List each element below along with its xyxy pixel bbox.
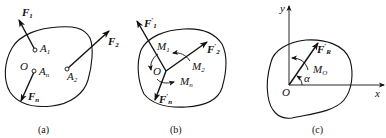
label-alpha: α: [304, 72, 310, 84]
caption-b: (b): [170, 124, 182, 136]
label-m2: M2: [191, 60, 205, 74]
angle-arc-alpha: [297, 76, 302, 85]
rigid-body-outline: [138, 29, 226, 107]
point-a1: [33, 48, 37, 52]
label-o: O: [282, 86, 290, 98]
label-y: y: [279, 2, 285, 14]
panel-b: F′1 F′2 F′n O M1 M2 Mn (b): [137, 16, 226, 136]
label-f1-prime: F′1: [143, 16, 157, 30]
point-an: [32, 69, 36, 73]
label-a1: A1: [39, 42, 50, 56]
label-o: O: [153, 65, 161, 77]
label-fn-prime: F′n: [158, 92, 172, 106]
label-mo: MO: [312, 63, 327, 77]
label-o: O: [20, 60, 28, 72]
caption-c: (c): [312, 124, 323, 136]
label-fn: Fn: [27, 90, 39, 104]
force-vector-f1: [19, 20, 35, 50]
label-f2-prime: F′2: [206, 42, 220, 56]
label-f1: F1: [21, 6, 33, 20]
label-m1: M1: [156, 40, 170, 54]
label-f2: F2: [107, 35, 119, 49]
force-vector-f2: [67, 31, 109, 69]
panel-c: y x O F′R MO α (c): [267, 2, 384, 136]
label-x: x: [374, 87, 380, 99]
label-an: An: [38, 65, 50, 79]
label-mn: Mn: [179, 75, 193, 89]
rigid-body-outline: [5, 27, 92, 107]
force-system-reduction-figure: F1 A1 F2 A2 O An Fn (a) F′1 F′2 F′n O M1: [0, 0, 386, 138]
panel-a: F1 A1 F2 A2 O An Fn (a): [5, 6, 119, 136]
moment-arc-mn: [157, 79, 174, 83]
label-a2: A2: [66, 70, 78, 84]
label-fr-prime: F′R: [316, 42, 331, 56]
caption-a: (a): [38, 124, 49, 136]
